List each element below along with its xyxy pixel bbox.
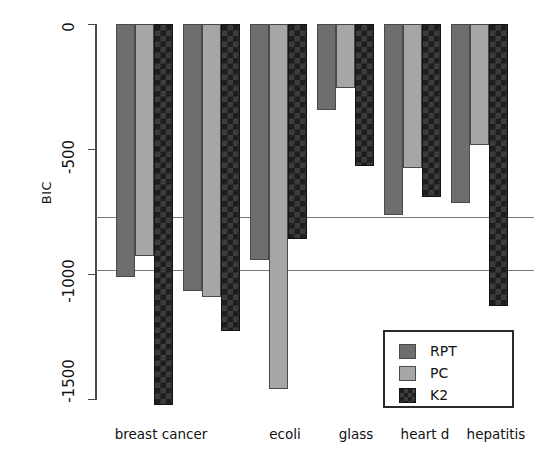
legend-item-pc: PC xyxy=(399,363,448,383)
bar-k2-breast xyxy=(154,24,173,405)
y-tick-label-500: -500 xyxy=(60,130,78,184)
bar-rpt-breast xyxy=(116,24,135,277)
bar-k2-heartd xyxy=(422,24,441,197)
x-tick-label-glass: glass xyxy=(327,426,385,442)
bar-pc-cancer xyxy=(202,24,221,297)
chart-legend: RPT PC K2 xyxy=(383,330,514,408)
legend-label-rpt: RPT xyxy=(430,344,457,358)
bar-k2-cancer xyxy=(221,24,240,331)
legend-item-k2: K2 xyxy=(399,385,448,405)
bar-rpt-hepatitis xyxy=(451,24,470,203)
bar-rpt-heartd xyxy=(384,24,403,215)
bar-rpt-glass xyxy=(317,24,336,110)
bic-bar-chart-figure: BIC 0 -500 -1000 -1500 RPT xyxy=(0,0,552,469)
bar-k2-glass xyxy=(355,24,374,166)
legend-label-pc: PC xyxy=(430,366,448,380)
bar-pc-hepatitis xyxy=(470,24,489,145)
legend-swatch-rpt-icon xyxy=(399,344,416,359)
x-tick-label-hepatitis: hepatitis xyxy=(457,426,535,442)
bar-pc-breast xyxy=(135,24,154,256)
y-axis-tick-1500 xyxy=(88,399,95,400)
bar-pc-heartd xyxy=(403,24,422,168)
legend-label-k2: K2 xyxy=(430,388,448,402)
x-tick-label-heart-d: heart d xyxy=(391,426,459,442)
legend-swatch-k2-icon xyxy=(399,388,416,403)
bar-pc-ecoli xyxy=(269,24,288,389)
bar-rpt-ecoli xyxy=(250,24,269,260)
bar-k2-ecoli xyxy=(288,24,307,239)
bar-rpt-cancer xyxy=(183,24,202,291)
y-tick-label-1000: -1000 xyxy=(60,250,78,312)
legend-swatch-pc-icon xyxy=(399,366,416,381)
x-tick-label-breast-cancer: breast cancer xyxy=(96,426,226,442)
legend-item-rpt: RPT xyxy=(399,341,457,361)
y-axis-tick-0 xyxy=(88,24,95,25)
bar-pc-glass xyxy=(336,24,355,88)
y-tick-label-0: 0 xyxy=(60,7,78,47)
y-tick-label-1500: -1500 xyxy=(60,350,78,412)
y-axis-tick-1000 xyxy=(88,274,95,275)
bar-k2-hepatitis xyxy=(489,24,508,306)
y-axis-title: BIC xyxy=(39,153,54,233)
y-axis-tick-500 xyxy=(88,149,95,150)
x-tick-label-ecoli: ecoli xyxy=(255,426,315,442)
